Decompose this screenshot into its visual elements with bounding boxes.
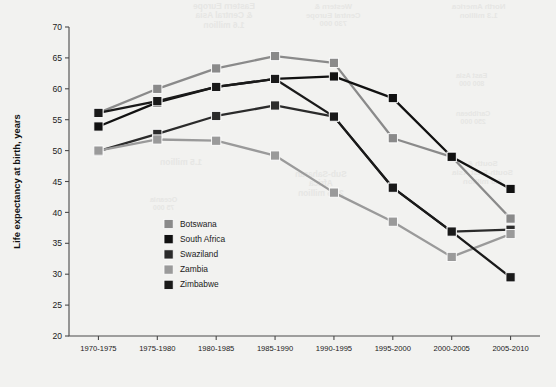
data-point-marker (94, 122, 103, 131)
data-point-marker (212, 82, 221, 91)
data-point-marker (506, 184, 515, 193)
x-tick-label: 1995-2000 (375, 344, 411, 353)
data-point-marker (153, 135, 162, 144)
y-tick-label: 20 (52, 331, 62, 341)
y-tick-label: 45 (52, 177, 62, 187)
data-point-marker (447, 252, 456, 261)
legend-label-zambia: Zambia (180, 264, 208, 274)
series-line-zimbabwe (98, 79, 510, 277)
data-point-marker (506, 273, 515, 282)
data-point-marker (506, 229, 515, 238)
y-tick-label: 35 (52, 238, 62, 248)
data-point-marker (388, 217, 397, 226)
axes (69, 27, 540, 336)
data-point-marker (212, 64, 221, 73)
x-tick-label: 1990-1995 (316, 344, 352, 353)
data-point-marker (388, 183, 397, 192)
data-point-marker (447, 227, 456, 236)
x-tick-label: 2005-2010 (492, 344, 528, 353)
y-tick-label: 25 (52, 300, 62, 310)
x-axis: 1970-19751975-19801980-19851985-19901990… (80, 336, 528, 353)
data-point-marker (153, 97, 162, 106)
chart-svg: 20253035404550556065701970-19751975-1980… (0, 0, 556, 387)
y-axis: 2025303540455055606570 (52, 22, 69, 341)
legend-swatch-botswana (164, 219, 173, 228)
y-tick-label: 65 (52, 53, 62, 63)
data-point-marker (388, 93, 397, 102)
legend-label-botswana: Botswana (180, 219, 217, 229)
data-point-marker (270, 151, 279, 160)
data-point-marker (212, 111, 221, 120)
y-tick-label: 60 (52, 84, 62, 94)
y-tick-label: 30 (52, 269, 62, 279)
legend-label-south-africa: South Africa (180, 234, 226, 244)
legend-label-zimbabwe: Zimbabwe (180, 279, 219, 289)
data-point-marker (153, 84, 162, 93)
y-tick-label: 70 (52, 22, 62, 32)
data-point-marker (270, 74, 279, 83)
x-tick-label: 1975-1980 (139, 344, 175, 353)
legend-swatch-swaziland (164, 250, 173, 259)
x-tick-label: 2000-2005 (434, 344, 470, 353)
y-tick-label: 50 (52, 146, 62, 156)
y-axis-title: Life expectancy at birth, years (11, 114, 22, 248)
x-tick-label: 1985-1990 (257, 344, 293, 353)
series-line-swaziland (98, 105, 510, 231)
data-point-marker (329, 58, 338, 67)
legend: BotswanaSouth AfricaSwazilandZambiaZimba… (164, 219, 226, 290)
data-point-marker (329, 188, 338, 197)
data-point-marker (329, 112, 338, 121)
legend-swatch-zimbabwe (164, 280, 173, 289)
data-point-marker (270, 101, 279, 110)
y-tick-label: 55 (52, 115, 62, 125)
axis-lines (69, 27, 540, 336)
data-point-marker (94, 146, 103, 155)
data-point-marker (212, 136, 221, 145)
x-tick-label: 1970-1975 (80, 344, 116, 353)
legend-swatch-zambia (164, 265, 173, 274)
data-point-marker (329, 72, 338, 81)
data-point-marker (388, 134, 397, 143)
data-point-marker (94, 108, 103, 117)
data-point-marker (506, 214, 515, 223)
data-point-marker (447, 152, 456, 161)
series-markers (94, 51, 515, 281)
legend-label-swaziland: Swaziland (180, 249, 219, 259)
data-point-marker (270, 51, 279, 60)
legend-swatch-south-africa (164, 235, 173, 244)
x-tick-label: 1980-1985 (198, 344, 234, 353)
life-expectancy-chart: Eastern Europe & Central Asia 1.6 millio… (0, 0, 556, 387)
y-tick-label: 40 (52, 208, 62, 218)
plot-area: 20253035404550556065701970-19751975-1980… (0, 0, 556, 387)
